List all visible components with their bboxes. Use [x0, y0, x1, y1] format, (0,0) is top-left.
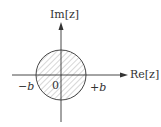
imaginary-axis-label: Im[z] [50, 9, 79, 20]
diagram-graphics [0, 0, 161, 127]
imaginary-axis-arrow-icon [59, 22, 64, 30]
z-plane-diagram: Im[z] Re[z] −b 0 +b [0, 0, 161, 127]
neg-b-label: −b [18, 81, 34, 92]
real-axis-label: Re[z] [130, 69, 159, 80]
origin-label: 0 [52, 80, 59, 91]
real-axis-arrow-icon [120, 73, 128, 78]
pos-b-label: +b [90, 82, 106, 93]
